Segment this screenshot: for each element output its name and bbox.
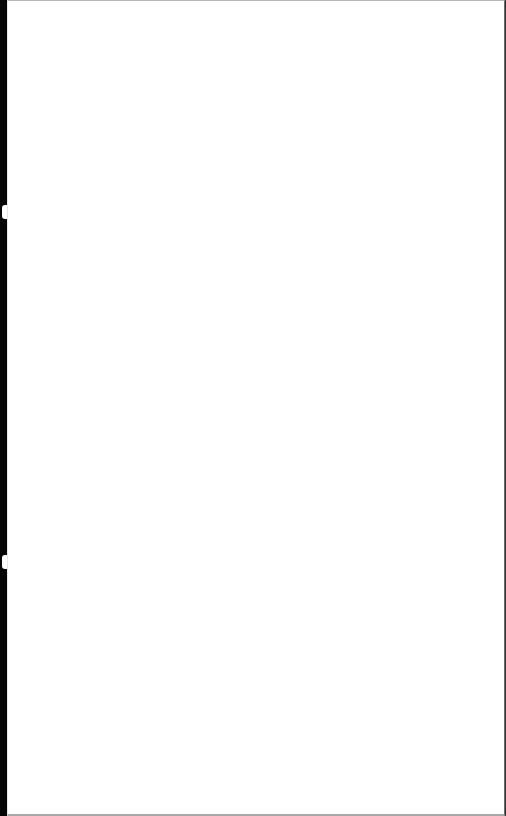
page-content xyxy=(8,1,504,814)
blank-page xyxy=(7,0,505,816)
left-edge-bar xyxy=(0,0,7,816)
document-viewer xyxy=(0,0,506,816)
